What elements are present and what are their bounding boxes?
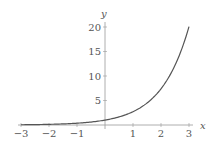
x-tick-label: −1: [70, 128, 85, 139]
x-axis: −3−2−1123 x: [14, 120, 206, 139]
y-tick-label: 15: [88, 46, 101, 57]
x-tick-label: 3: [186, 128, 192, 139]
y-tick-label: 20: [88, 22, 101, 33]
y-tick-label: 5: [95, 95, 101, 106]
y-ticks: 5101520: [88, 22, 107, 107]
x-tick-label: 1: [130, 128, 136, 139]
y-axis: 5101520 y: [88, 8, 107, 129]
x-axis-label: x: [200, 120, 206, 131]
y-tick-label: 10: [88, 71, 101, 82]
y-axis-label: y: [100, 8, 107, 19]
x-tick-label: −2: [42, 128, 57, 139]
x-tick-label: 2: [158, 128, 164, 139]
x-tick-label: −3: [14, 128, 29, 139]
exponential-plot: −3−2−1123 x 5101520 y: [0, 0, 217, 148]
